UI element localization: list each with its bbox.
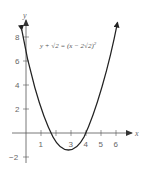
y-tick-label: −2 [9, 153, 19, 162]
equation-exponent: 2 [94, 41, 97, 46]
x-tick-label: 6 [114, 140, 119, 149]
y-axis-label: y [22, 11, 27, 20]
x-axis-label: x [134, 129, 139, 138]
y-tick-label: 8 [15, 33, 20, 42]
y-tick-label: 2 [15, 105, 20, 114]
equation-rhs: (x − 2√2) [67, 42, 95, 50]
x-tick-label: 3 [69, 140, 74, 149]
y-tick-label: 4 [15, 81, 20, 90]
x-tick-label: 5 [99, 140, 104, 149]
parabola-chart: x y 1 3 4 5 6 8 6 4 2 −2 y + √2 = (x − 2… [0, 0, 144, 174]
x-tick-label: 1 [39, 140, 44, 149]
equation-lhs: y + √2 = [39, 42, 67, 50]
y-tick-label: 6 [15, 57, 20, 66]
equation-label: y + √2 = (x − 2√2)2 [39, 41, 97, 50]
x-tick-label: 4 [84, 140, 89, 149]
